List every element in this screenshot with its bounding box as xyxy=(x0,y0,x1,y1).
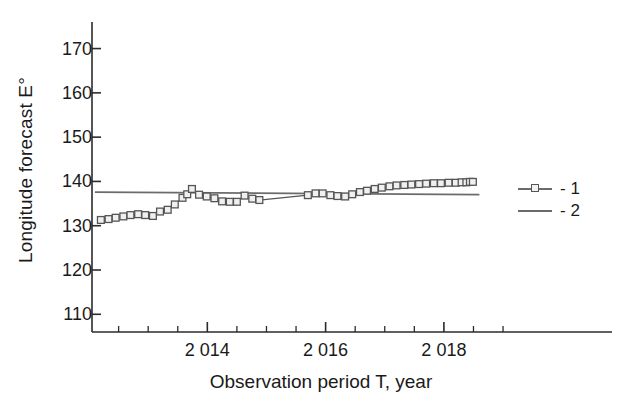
y-axis-title-text: Longitude forecast E° xyxy=(15,77,37,263)
series-1-marker xyxy=(430,180,437,187)
y-tick-label: 130 xyxy=(46,215,92,236)
x-tick-label: 2 018 xyxy=(421,340,466,361)
series-1-marker xyxy=(241,192,248,199)
x-tick-label: 2 014 xyxy=(185,340,230,361)
series-1-marker xyxy=(342,193,349,200)
series-1-marker xyxy=(319,190,326,197)
series-1-marker xyxy=(97,217,104,224)
series-1-marker xyxy=(164,206,171,213)
y-tick-label: 110 xyxy=(46,304,92,325)
x-axis-title: Observation period T, year xyxy=(0,371,618,393)
series-1-marker xyxy=(112,214,119,221)
series-1-marker xyxy=(226,198,233,205)
series-1-marker xyxy=(423,180,430,187)
series-1-marker xyxy=(150,213,157,220)
series-1-marker xyxy=(105,216,112,223)
series-1-marker xyxy=(469,178,476,185)
series-1-marker xyxy=(219,198,226,205)
series-1-marker xyxy=(416,181,423,188)
y-tick-label: 120 xyxy=(46,260,92,281)
series-1-marker xyxy=(371,186,378,193)
y-tick-label: 150 xyxy=(46,127,92,148)
legend-label-2: - 2 xyxy=(560,201,580,221)
series-1-marker xyxy=(327,192,334,199)
series-1-marker xyxy=(120,213,127,220)
legend: - 1 - 2 xyxy=(516,178,612,222)
series-1-marker xyxy=(445,179,452,186)
series-1-marker xyxy=(135,211,142,218)
chart-figure: Longitude forecast E° 110120130140150160… xyxy=(0,0,618,415)
series-1-marker xyxy=(378,184,385,191)
series-1-marker xyxy=(304,192,311,199)
series-1-marker xyxy=(256,197,263,204)
series-1-marker xyxy=(127,212,134,219)
series-1-marker xyxy=(438,180,445,187)
series-1-marker xyxy=(203,193,210,200)
series-1-marker xyxy=(408,181,415,188)
series-1-marker xyxy=(401,182,408,189)
series-1-marker xyxy=(142,212,149,219)
y-tick-label: 160 xyxy=(46,82,92,103)
series-1-marker xyxy=(249,195,256,202)
series-1-marker xyxy=(312,190,319,197)
series-1-marker xyxy=(171,201,178,208)
series-1-marker xyxy=(189,186,196,193)
series-1-marker xyxy=(157,208,164,215)
series-1-marker xyxy=(357,189,364,196)
series-2-trend-line xyxy=(95,192,479,195)
y-tick-label: 170 xyxy=(46,38,92,59)
series-1-marker xyxy=(364,187,371,194)
series-1-marker xyxy=(196,191,203,198)
series-1-marker xyxy=(211,195,218,202)
series-1-marker xyxy=(386,183,393,190)
x-tick-label: 2 016 xyxy=(303,340,348,361)
y-tick-label: 140 xyxy=(46,171,92,192)
y-tick-label-group: 110120130140150160170 xyxy=(44,0,92,415)
legend-item-1[interactable]: - 1 xyxy=(516,178,612,200)
series-1-marker xyxy=(234,198,241,205)
series-1-marker xyxy=(334,193,341,200)
series-1-marker xyxy=(349,191,356,198)
legend-item-2[interactable]: - 2 xyxy=(516,200,612,222)
series-1-marker xyxy=(393,182,400,189)
legend-line-icon xyxy=(516,202,554,220)
legend-marker-line-icon xyxy=(516,180,554,198)
legend-label-1: - 1 xyxy=(560,179,580,199)
y-axis-title: Longitude forecast E° xyxy=(6,0,46,340)
